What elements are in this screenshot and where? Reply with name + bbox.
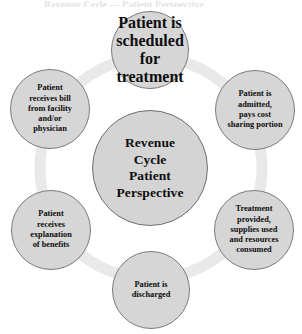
cycle-node-explanation-of-benefits[interactable]: Patient receives explanation of benefits	[11, 190, 91, 270]
cycle-node-admitted[interactable]: Patient is admitted, pays cost sharing p…	[215, 70, 295, 150]
cycle-node-treatment[interactable]: Treatment provided, supplies used and re…	[214, 190, 294, 270]
cycle-node-scheduled[interactable]: Patient is scheduled for treatment	[111, 11, 189, 89]
cycle-center-hub-label: Revenue Cycle Patient Perspective	[116, 135, 183, 201]
cycle-node-scheduled-label: Patient is scheduled for treatment	[112, 14, 188, 86]
cycle-node-admitted-label: Patient is admitted, pays cost sharing p…	[227, 89, 282, 130]
cycle-node-discharged[interactable]: Patient is discharged	[112, 251, 190, 329]
cycle-node-discharged-label: Patient is discharged	[132, 280, 171, 301]
cycle-node-explanation-of-benefits-label: Patient receives explanation of benefits	[30, 209, 72, 250]
cycle-center-hub: Revenue Cycle Patient Perspective	[92, 110, 208, 226]
cycle-node-treatment-label: Treatment provided, supplies used and re…	[230, 204, 279, 255]
cycle-node-bill[interactable]: Patient receives bill from facility and/…	[10, 69, 90, 149]
cycle-node-bill-label: Patient receives bill from facility and/…	[28, 83, 72, 134]
revenue-cycle-diagram: Revenue Cycle — Patient Perspective Pati…	[0, 0, 302, 334]
